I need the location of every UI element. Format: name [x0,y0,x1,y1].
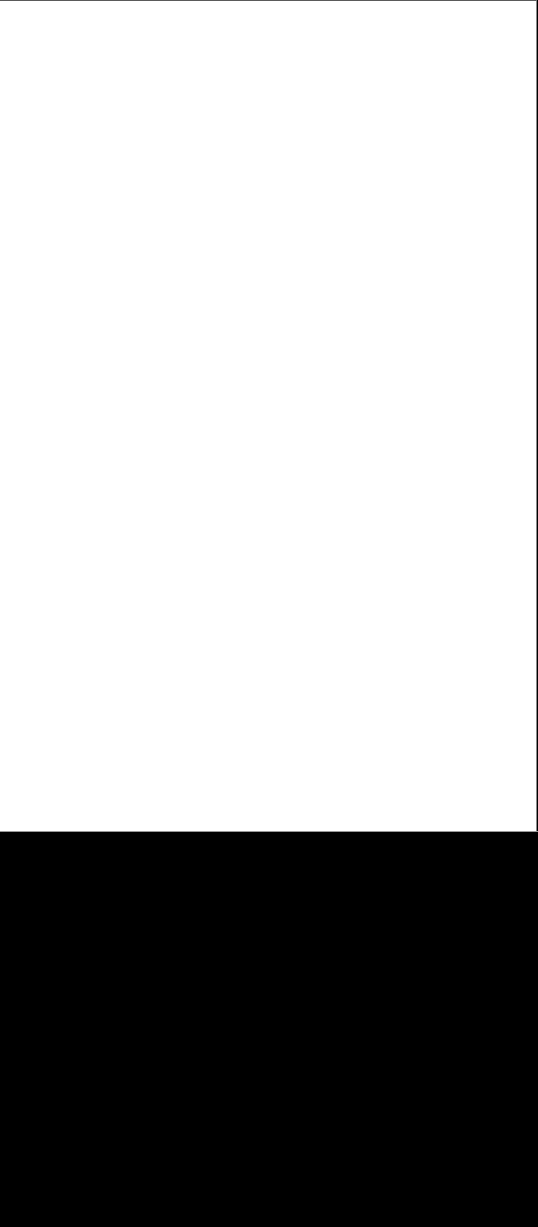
black-backdrop [0,832,538,1227]
document-viewport [0,0,538,1227]
blank-document-page [0,0,537,831]
